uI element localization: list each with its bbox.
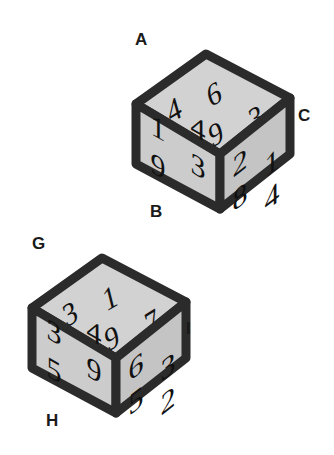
cube-2-label-i: I bbox=[186, 320, 191, 337]
dice-illustration: 4 6 9 3 1 4 9 3 2 bbox=[0, 0, 334, 455]
cube-1-label-c: C bbox=[298, 107, 310, 124]
cube-2-label-g: G bbox=[32, 235, 45, 252]
cube-2-label-h: H bbox=[46, 412, 58, 429]
cube-1-label-a: A bbox=[135, 31, 147, 48]
cube-1: 4 6 9 3 1 4 9 3 2 bbox=[128, 46, 298, 218]
cube-1-label-b: B bbox=[150, 203, 162, 220]
cube-2: 3 1 9 7 3 4 5 9 6 bbox=[24, 250, 194, 422]
